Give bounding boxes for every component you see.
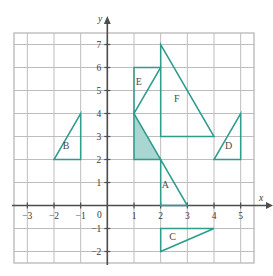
- x-tick-label: −2: [49, 211, 59, 221]
- x-tick-label: −1: [76, 211, 86, 221]
- y-tick-label: 1: [97, 178, 102, 188]
- y-tick-label: 3: [97, 132, 102, 142]
- y-tick-label: 2: [97, 155, 102, 165]
- x-tick-label: −3: [22, 211, 32, 221]
- x-axis-name: x: [258, 193, 264, 203]
- x-tick-label: 3: [185, 211, 190, 221]
- y-tick-label: 5: [97, 86, 102, 96]
- y-tick-label: 4: [97, 109, 102, 119]
- coordinate-grid-figure: −3−2−1012345−2−11234567 ABCDEF x y: [0, 0, 273, 276]
- y-axis-arrow: [104, 16, 111, 24]
- shape-label-e: E: [136, 76, 142, 87]
- coordinate-plane-svg: −3−2−1012345−2−11234567 ABCDEF x y: [0, 0, 273, 276]
- shape-label-d: D: [225, 140, 232, 151]
- shape-label-a: A: [162, 179, 170, 190]
- x-tick-label: 2: [158, 211, 163, 221]
- x-axis-arrow: [266, 202, 273, 209]
- y-tick-label: 7: [97, 40, 102, 50]
- shape-label-f: F: [174, 93, 180, 104]
- tick-labels: −3−2−1012345−2−11234567: [22, 40, 243, 257]
- y-tick-label: −1: [91, 224, 101, 234]
- shape-label-b: B: [63, 140, 70, 151]
- shape-label-c: C: [169, 231, 176, 242]
- y-tick-label: −2: [91, 247, 101, 257]
- y-tick-label: 6: [97, 63, 102, 73]
- y-axis-name: y: [97, 14, 103, 24]
- x-tick-label: 1: [132, 211, 137, 221]
- x-tick-label: 5: [238, 211, 243, 221]
- origin-label: 0: [97, 210, 102, 220]
- x-tick-label: 4: [212, 211, 217, 221]
